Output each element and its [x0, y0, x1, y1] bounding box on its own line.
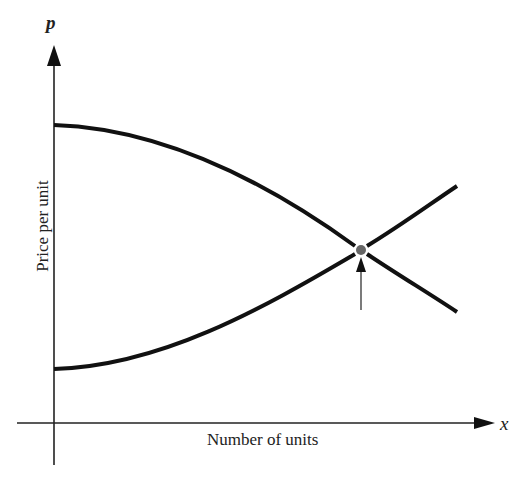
y-axis-symbol: p — [46, 12, 56, 34]
y-axis-arrowhead-icon — [47, 45, 61, 66]
x-axis-title: Number of units — [207, 430, 318, 450]
chart-canvas — [0, 0, 527, 483]
supply-curve — [54, 186, 457, 369]
equilibrium-point — [356, 245, 366, 255]
x-axis-symbol: x — [500, 413, 508, 435]
x-axis-arrowhead-icon — [474, 417, 495, 429]
demand-curve — [54, 125, 457, 312]
equilibrium-arrowhead-icon — [356, 257, 366, 272]
y-axis-title: Price per unit — [33, 156, 53, 296]
